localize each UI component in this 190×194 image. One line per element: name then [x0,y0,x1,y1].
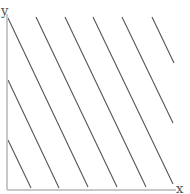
level-line-2 [8,80,59,188]
level-line-7 [122,17,173,123]
level-line-1 [8,140,31,188]
level-lines-diagram: y x [0,0,190,194]
level-line-8 [152,17,174,63]
parallel-lines [8,17,174,188]
x-axis-label: x [176,181,184,194]
y-axis-label: y [0,3,9,18]
